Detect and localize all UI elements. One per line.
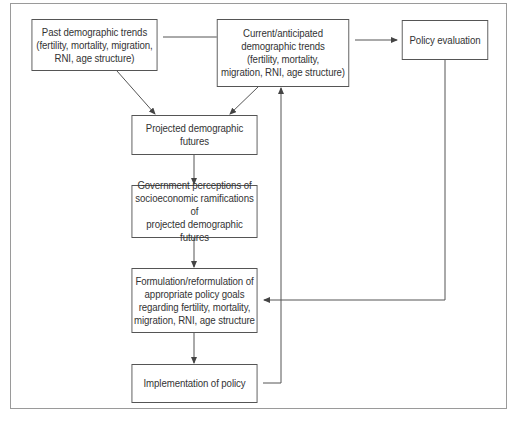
node-label: Formulation/reformulation of appropriate… bbox=[134, 275, 255, 327]
node-policy-formulation: Formulation/reformulation of appropriate… bbox=[131, 268, 257, 333]
node-projected-demographic-futures: Projected demographic futures bbox=[131, 115, 257, 155]
node-government-perceptions: Government perceptions of socioeconomic … bbox=[131, 185, 257, 238]
node-label: Implementation of policy bbox=[144, 377, 246, 390]
node-label: Projected demographic futures bbox=[132, 122, 256, 148]
node-label: Current/anticipated demographic trends (… bbox=[221, 27, 345, 79]
node-label: Policy evaluation bbox=[410, 34, 481, 47]
node-policy-implementation: Implementation of policy bbox=[131, 364, 257, 403]
node-label: Government perceptions of socioeconomic … bbox=[132, 179, 256, 244]
node-current-demographic-trends: Current/anticipated demographic trends (… bbox=[217, 19, 349, 87]
node-policy-evaluation: Policy evaluation bbox=[402, 20, 488, 60]
node-label: Past demographic trends (fertility, mort… bbox=[36, 26, 152, 65]
node-past-demographic-trends: Past demographic trends (fertility, mort… bbox=[31, 19, 157, 71]
